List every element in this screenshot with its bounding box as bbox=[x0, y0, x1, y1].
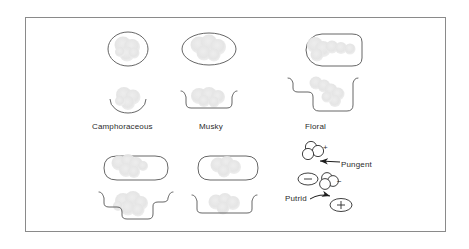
putrid-molecule-charge-sign: − bbox=[337, 177, 342, 186]
label-putrid: Putrid bbox=[285, 194, 307, 203]
putrid-receptor-site bbox=[330, 199, 352, 212]
putrid-callout-arrow bbox=[310, 195, 330, 199]
pungent-molecule-charge-sign: + bbox=[323, 143, 328, 152]
pungent-receptor-site bbox=[298, 173, 318, 185]
molecule-floral bbox=[306, 34, 362, 66]
pungent-callout-arrow bbox=[320, 161, 340, 162]
odor-receptor-figure: Camphoraceous Musky Floral Pungent Putri… bbox=[0, 0, 469, 249]
label-camphoraceous: Camphoraceous bbox=[92, 122, 153, 131]
label-pungent: Pungent bbox=[341, 160, 372, 169]
receptor-floral bbox=[288, 77, 358, 112]
molecule-camphoraceous bbox=[108, 32, 148, 66]
molecule-putrid bbox=[320, 173, 339, 190]
molecule-musky bbox=[182, 33, 236, 65]
receptor-musky bbox=[181, 87, 237, 108]
receptor-camphoraceous bbox=[110, 87, 146, 113]
receptor-minty bbox=[99, 191, 173, 219]
molecule-minty bbox=[104, 154, 168, 180]
molecule-pungent bbox=[302, 141, 323, 159]
molecule-ethereal bbox=[198, 156, 258, 180]
label-musky: Musky bbox=[199, 122, 223, 131]
figure-artwork bbox=[0, 0, 469, 249]
label-floral: Floral bbox=[305, 122, 326, 131]
receptor-ethereal bbox=[192, 193, 257, 215]
